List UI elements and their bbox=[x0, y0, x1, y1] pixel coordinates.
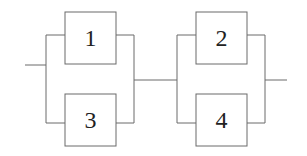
block-1-label: 1 bbox=[85, 25, 97, 51]
block-2-label: 2 bbox=[216, 25, 228, 51]
block-4-label: 4 bbox=[216, 107, 228, 133]
right-parallel-group: 2 4 bbox=[177, 12, 265, 146]
left-parallel-group: 1 3 bbox=[46, 12, 134, 146]
reliability-block-diagram: 1 3 2 4 bbox=[0, 0, 307, 156]
block-3-label: 3 bbox=[85, 107, 97, 133]
